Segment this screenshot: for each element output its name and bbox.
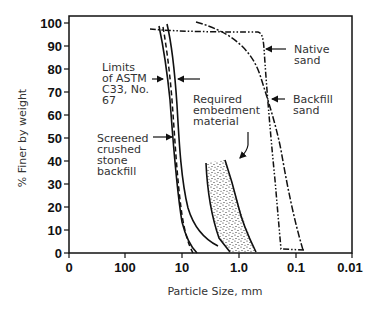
x-tick-label: 10 [175, 260, 189, 275]
x-tick-label: 100 [114, 260, 136, 275]
y-tick-labels: 100 90 80 70 60 50 40 30 20 10 0 [40, 16, 62, 261]
annotation-embedment: Required embedment material [193, 93, 261, 158]
y-tick-label: 20 [48, 200, 62, 215]
svg-text:backfill: backfill [97, 165, 136, 178]
embedment-band [206, 160, 256, 252]
x-tick-label: 0 [65, 260, 72, 275]
annotation-screened-stone: Screened crushed stone backfill [97, 132, 172, 178]
svg-text:67: 67 [102, 94, 116, 107]
y-tick-label: 0 [55, 246, 62, 261]
screened-crushed-stone-curve [163, 27, 193, 253]
y-tick-label: 40 [48, 154, 62, 169]
y-tick-label: 50 [48, 131, 62, 146]
y-tick-label: 100 [40, 16, 62, 31]
gradation-chart: 100 90 80 70 60 50 40 30 20 10 0 0 100 1… [0, 0, 375, 312]
svg-text:material: material [193, 115, 239, 128]
x-tick-label: 0.1 [287, 260, 305, 275]
svg-text:sand: sand [294, 54, 320, 67]
x-axis-title: Particle Size, mm [167, 285, 262, 298]
annotation-backfill-sand: Backfill sand [272, 93, 333, 117]
annotation-native-sand: Native sand [266, 43, 330, 67]
x-tick-label: 1.0 [230, 260, 248, 275]
y-tick-label: 70 [48, 85, 62, 100]
y-tick-label: 90 [48, 39, 62, 54]
y-tick-label: 30 [48, 177, 62, 192]
y-tick-label: 80 [48, 62, 62, 77]
y-tick-label: 60 [48, 108, 62, 123]
y-tick-label: 10 [48, 223, 62, 238]
svg-text:sand: sand [293, 104, 319, 117]
x-tick-labels: 0 100 10 1.0 0.1 0.01 [65, 260, 362, 275]
x-tick-label: 0.01 [337, 260, 362, 275]
y-axis-title: % Finer by weight [16, 88, 29, 187]
annotation-astm: Limits of ASTM C33, No. 67 [102, 61, 200, 107]
